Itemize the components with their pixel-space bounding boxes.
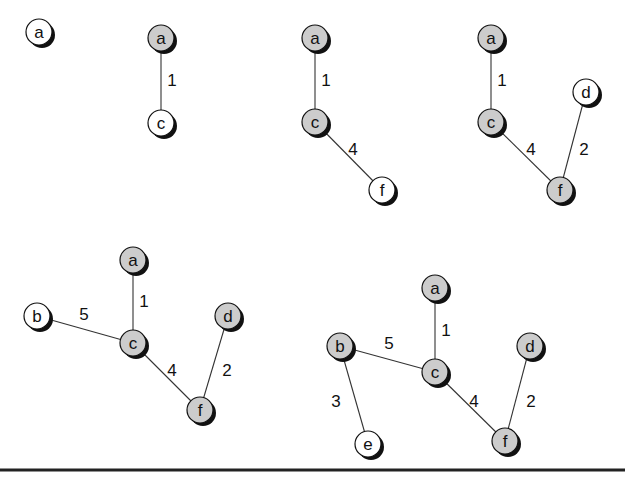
edge-weight-label: 4 — [167, 361, 176, 380]
node-c: c — [422, 359, 451, 388]
node-d: d — [573, 79, 602, 108]
graphs-layer: a1ac14acf142acdf1542abcdf15342abcdef — [24, 19, 602, 460]
node-label: a — [128, 251, 138, 270]
node-label: b — [335, 337, 344, 356]
edge-weight-label: 1 — [321, 71, 330, 90]
node-label: d — [525, 337, 534, 356]
graph-step-1: a — [26, 19, 55, 48]
node-label: a — [156, 29, 166, 48]
graph-step-4: 142acdf — [478, 25, 602, 206]
node-a: a — [148, 25, 177, 54]
node-a: a — [302, 25, 331, 54]
node-label: c — [487, 113, 496, 132]
node-f: f — [187, 397, 216, 426]
node-label: c — [157, 114, 166, 133]
edge-weight-label: 2 — [222, 361, 231, 380]
node-label: b — [32, 307, 41, 326]
node-label: f — [503, 432, 508, 451]
node-b: b — [24, 303, 53, 332]
edge-weight-label: 5 — [79, 305, 88, 324]
node-a: a — [478, 25, 507, 54]
node-b: b — [327, 333, 356, 362]
node-d: d — [215, 303, 244, 332]
node-label: a — [310, 29, 320, 48]
node-label: a — [430, 279, 440, 298]
node-c: c — [478, 109, 507, 138]
node-label: e — [363, 435, 372, 454]
node-f: f — [369, 177, 398, 206]
node-c: c — [148, 110, 177, 139]
node-f: f — [492, 428, 521, 457]
node-label: c — [431, 363, 440, 382]
node-label: f — [198, 401, 203, 420]
edge-weight-label: 4 — [348, 140, 357, 159]
edge-weight-label: 1 — [441, 321, 450, 340]
node-e: e — [355, 431, 384, 460]
edge-weight-label: 1 — [167, 71, 176, 90]
node-label: f — [380, 181, 385, 200]
node-c: c — [302, 109, 331, 138]
edge-weight-label: 2 — [579, 140, 588, 159]
edge-weight-label: 5 — [384, 334, 393, 353]
graph-step-2: 1ac — [148, 25, 177, 139]
node-a: a — [422, 275, 451, 304]
node-a: a — [120, 247, 149, 276]
node-label: d — [581, 83, 590, 102]
graph-step-3: 14acf — [302, 25, 398, 206]
node-f: f — [547, 177, 576, 206]
node-label: a — [486, 29, 496, 48]
graph-step-6: 15342abcdef — [327, 275, 546, 460]
edge-weight-label: 4 — [469, 392, 478, 411]
edge-weight-label: 4 — [526, 140, 535, 159]
node-label: c — [311, 113, 320, 132]
edge-weight-label: 3 — [331, 392, 340, 411]
edge-weight-label: 1 — [139, 292, 148, 311]
node-c: c — [120, 330, 149, 359]
node-label: c — [129, 334, 138, 353]
edge-weight-label: 2 — [526, 392, 535, 411]
graph-step-5: 1542abcdf — [24, 247, 244, 426]
edge-weight-label: 1 — [497, 71, 506, 90]
mst-steps-diagram: a1ac14acf142acdf1542abcdf15342abcdef — [0, 0, 625, 484]
node-label: f — [558, 181, 563, 200]
node-label: a — [34, 23, 44, 42]
node-a: a — [26, 19, 55, 48]
node-d: d — [517, 333, 546, 362]
node-label: d — [223, 307, 232, 326]
